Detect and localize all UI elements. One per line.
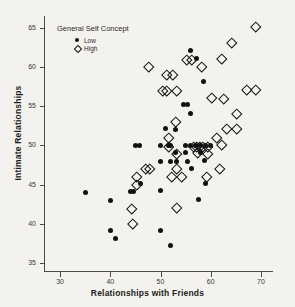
data-point-low: [83, 190, 88, 195]
data-point-low: [108, 228, 113, 233]
y-tick: [40, 106, 45, 107]
y-tick: [40, 185, 45, 186]
x-tick-label: 50: [150, 278, 172, 286]
x-tick-label: 40: [99, 278, 121, 286]
data-point-high: [196, 61, 207, 72]
data-point-high: [144, 62, 155, 73]
data-point-high: [127, 219, 138, 230]
data-point-low: [189, 166, 194, 171]
y-tick-label: 40: [14, 220, 36, 228]
open-diamond-icon: [73, 44, 82, 53]
legend-label-low: Low: [84, 37, 96, 44]
data-point-low: [108, 198, 113, 203]
data-point-low: [158, 228, 163, 233]
data-point-high: [232, 124, 243, 135]
data-point-low: [188, 111, 193, 116]
data-point-low: [168, 159, 173, 164]
data-point-low: [173, 127, 178, 132]
data-point-high: [170, 117, 181, 128]
data-point-low: [113, 236, 118, 241]
data-point-low: [131, 189, 136, 194]
y-axis-title: Intimate Relationships: [13, 53, 23, 213]
data-point-high: [216, 140, 227, 151]
data-point-high: [126, 203, 137, 214]
data-point-low: [185, 159, 190, 164]
data-point-low: [183, 150, 188, 155]
y-tick: [40, 145, 45, 146]
legend-title: General Self Concept: [57, 24, 129, 33]
y-tick: [40, 28, 45, 29]
data-point-high: [171, 85, 182, 96]
legend-label-high: High: [84, 45, 97, 52]
y-tick: [40, 67, 45, 68]
y-axis-line: [44, 16, 45, 272]
data-point-high: [221, 124, 232, 135]
data-point-low: [188, 48, 193, 53]
x-tick: [60, 272, 61, 277]
x-axis-title: Relationships with Friends: [0, 288, 295, 298]
data-point-high: [206, 93, 217, 104]
legend-item-high: High: [73, 44, 129, 52]
data-point-low: [163, 126, 168, 131]
legend: General Self Concept Low High: [57, 24, 129, 52]
x-tick: [211, 272, 212, 277]
y-tick-label: 65: [14, 24, 36, 32]
data-point-high: [251, 22, 262, 33]
data-point-low: [185, 102, 190, 107]
data-point-high: [214, 164, 225, 175]
scatter-chart: 35404550556065 3040506070 General Self C…: [0, 0, 295, 307]
x-tick: [110, 272, 111, 277]
x-tick: [161, 272, 162, 277]
x-tick-label: 70: [250, 278, 272, 286]
data-point-low: [137, 143, 142, 148]
data-point-low: [168, 243, 173, 248]
data-point-high: [171, 202, 182, 213]
data-point-high: [227, 38, 238, 49]
data-point-low: [158, 143, 163, 148]
data-point-high: [251, 85, 262, 96]
x-axis-line: [45, 271, 273, 272]
x-tick: [261, 272, 262, 277]
y-tick: [40, 224, 45, 225]
data-point-high: [216, 53, 227, 64]
data-point-low: [196, 197, 201, 202]
data-point-high: [176, 172, 187, 183]
data-point-low: [158, 188, 163, 193]
x-tick-label: 30: [49, 278, 71, 286]
y-tick: [40, 263, 45, 264]
data-point-low: [158, 159, 163, 164]
data-point-low: [201, 79, 206, 84]
data-point-high: [218, 93, 229, 104]
data-point-high: [232, 108, 243, 119]
y-tick-label: 35: [14, 259, 36, 267]
x-tick-label: 60: [200, 278, 222, 286]
